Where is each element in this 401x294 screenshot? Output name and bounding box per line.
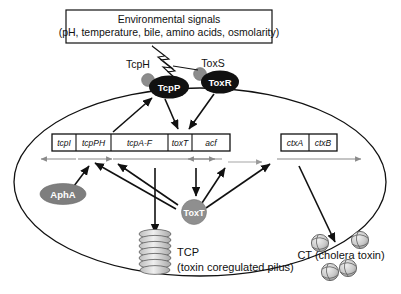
ct-toxin-sphere	[351, 231, 368, 248]
gene-ctxA: ctxA	[287, 138, 304, 148]
arrow-toxr-to-toxT	[189, 94, 214, 129]
apha-label: AphA	[50, 189, 75, 200]
regulatory-arrows	[74, 94, 335, 242]
arrow-toxT-to-ctxAB	[206, 164, 270, 208]
gene-tcpA-F: tcpA-F	[127, 138, 153, 148]
ct-label: CT (cholera toxin)	[297, 249, 384, 261]
toxs-label: ToxS	[201, 57, 224, 69]
arrow-toxT-to-tcpPH	[95, 163, 176, 209]
gene-tcpI: tcpI	[57, 138, 71, 148]
ctx-gene-cluster: ctxA ctxB	[281, 134, 337, 151]
tcp-acf-gene-cluster: tcpI tcpPH tcpA-F toxT acf	[52, 134, 230, 151]
figure-canvas: Environmental signals (pH, temperature, …	[0, 0, 401, 294]
arrow-ctxAB-to-CT	[299, 166, 335, 242]
gene-acf: acf	[205, 138, 218, 148]
regulatory-cascade-diagram: Environmental signals (pH, temperature, …	[0, 0, 401, 294]
tcp-fullname-label: (toxin coregulated pilus)	[177, 261, 294, 273]
arrow-toxT-to-tcpA-F	[118, 164, 178, 205]
tcpp-label: TcpP	[158, 82, 181, 93]
cell-membrane-outline	[14, 88, 386, 276]
toxr-label: ToxR	[208, 77, 231, 88]
environmental-signals-line1: Environmental signals	[118, 13, 221, 25]
gene-ctxB: ctxB	[315, 138, 332, 148]
ct-toxin-sphere	[321, 263, 338, 280]
ct-toxin-sphere	[339, 259, 356, 276]
arrow-tcpp-to-toxT	[165, 99, 178, 129]
bolt-to-toxs-connector	[173, 66, 198, 70]
toxt-label: ToxT	[184, 208, 205, 218]
tcp-pilus-glyph	[139, 229, 171, 274]
tcph-label: TcpH	[126, 58, 150, 70]
tcp-abbrev-label: TCP	[177, 246, 199, 258]
transcript-arrows	[41, 159, 361, 162]
lightning-bolt-icon	[152, 46, 176, 79]
gene-toxT: toxT	[172, 138, 189, 148]
gene-tcpPH: tcpPH	[82, 138, 106, 148]
arrow-apha-to-tcpPH	[74, 166, 89, 186]
environmental-signals-line2: (pH, temperature, bile, amino acids, osm…	[59, 26, 280, 38]
arrow-signal-to-tcpp	[113, 98, 152, 132]
